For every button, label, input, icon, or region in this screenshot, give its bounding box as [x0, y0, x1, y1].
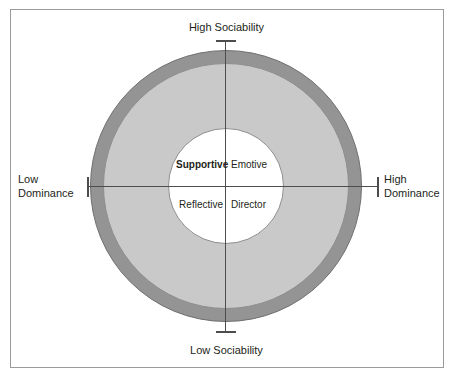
- axis-tick-bottom: [216, 331, 236, 333]
- quadrant-label-supportive: Supportive: [176, 159, 223, 171]
- quadrant-label-reflective: Reflective: [174, 199, 223, 211]
- axis-tick-top: [216, 40, 236, 42]
- axis-label-high-dominance: High Dominance: [384, 172, 450, 200]
- axis-label-high-sociability: High Sociability: [0, 20, 453, 34]
- quadrant-label-director: Director: [231, 199, 281, 211]
- axis-label-low-dominance: Low Dominance: [18, 172, 84, 200]
- horizontal-axis-line: [87, 186, 378, 187]
- axis-label-low-sociability: Low Sociability: [0, 343, 453, 357]
- behavioural-styles-diagram: High Sociability Low Sociability Low Dom…: [0, 0, 453, 379]
- quadrant-label-emotive: Emotive: [231, 159, 281, 171]
- axis-tick-left: [87, 177, 89, 197]
- axis-tick-right: [377, 177, 379, 197]
